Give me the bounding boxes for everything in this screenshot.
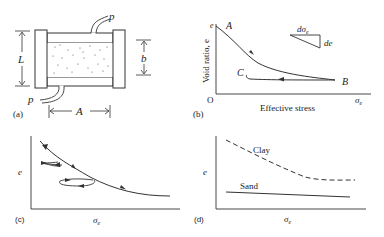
panel-d-label: (d): [194, 215, 204, 224]
virgin-compression-curve: [40, 141, 170, 196]
top-pipe: [91, 16, 110, 33]
panel-a-label: (a): [13, 109, 23, 119]
bottom-pipe: [40, 86, 64, 103]
panel-d: Clay Sand e σe (d): [194, 136, 366, 225]
tube-bottom-wall: [47, 77, 113, 86]
left-end-plate: [35, 30, 47, 88]
length-label: L: [17, 53, 24, 65]
unload-reload-loop-2: [60, 179, 95, 186]
consolidation-figure: L b A p p (a) dσe de A: [0, 0, 384, 237]
x-axis-label: σe: [284, 214, 291, 225]
y-axis-label: e: [203, 167, 207, 177]
area-label: A: [75, 105, 83, 117]
point-c-label: C: [237, 67, 244, 78]
pipe-top-label: p: [108, 10, 115, 22]
de-label: de: [324, 38, 333, 48]
x-axis-label: σe: [93, 215, 100, 226]
panel-b: dσe de A B C e Void ratio, e O Effective…: [193, 20, 371, 119]
thickness-label: b: [141, 52, 147, 64]
panel-b-label: (b): [193, 109, 204, 119]
sand-curve: [226, 192, 350, 197]
clay-curve: [226, 140, 355, 180]
d-sigma-label: dσe: [297, 24, 309, 35]
loading-curve: [216, 26, 335, 80]
pipe-bottom-label: p: [27, 93, 34, 105]
tube-top-wall: [47, 33, 113, 43]
y-axis-label: Void ratio, e: [201, 39, 211, 83]
panel-c-label: (c): [15, 215, 25, 224]
unloading-curve: [246, 75, 335, 80]
origin-label: O: [207, 95, 214, 105]
slope-triangle: [290, 35, 320, 48]
panel-a: L b A p p (a): [13, 10, 151, 119]
point-a-label: A: [225, 20, 233, 31]
sand-label: Sand: [240, 181, 259, 191]
y-axis-label: e: [18, 167, 22, 177]
panel-c: e σe (c): [15, 136, 180, 226]
clay-label: Clay: [253, 145, 270, 155]
right-end-plate: [113, 30, 125, 88]
y-axis-tick-e: e: [210, 21, 214, 30]
x-axis-symbol: σe: [355, 95, 362, 106]
point-b-label: B: [342, 76, 348, 87]
x-axis-label: Effective stress: [260, 103, 316, 113]
